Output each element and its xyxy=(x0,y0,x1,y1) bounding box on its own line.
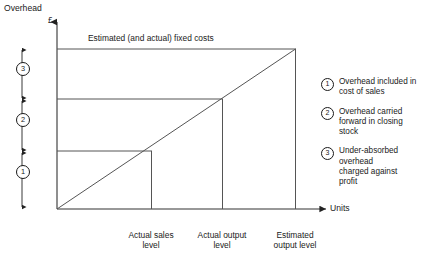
bracket-marker-1: 1 xyxy=(16,165,30,179)
legend-marker-3: 3 xyxy=(321,147,334,160)
legend-marker-2: 2 xyxy=(321,107,334,120)
legend-item: 2 Overhead carried forward in closing st… xyxy=(321,107,429,138)
x-tick-actual-sales-level: Actual sales level xyxy=(112,230,190,251)
fixed-costs-annotation: Estimated (and actual) fixed costs xyxy=(88,33,214,43)
bracket-marker-3: 3 xyxy=(16,62,30,76)
legend-label-3: Under-absorbed overhead charged against … xyxy=(339,146,398,187)
legend-label-2: Overhead carried forward in closing stoc… xyxy=(339,107,403,138)
overhead-absorption-chart: Overhead £ Units Estimated (and actual) … xyxy=(0,0,429,263)
bracket-marker-2: 2 xyxy=(16,113,30,127)
x-axis-title: Units xyxy=(330,203,350,213)
absorbed-overhead-line xyxy=(57,49,296,209)
legend-label-1: Overhead included in cost of sales xyxy=(339,77,416,98)
y-axis-title: Overhead xyxy=(4,3,42,13)
x-tick-actual-output-level: Actual output level xyxy=(183,230,261,251)
y-axis-unit-label: £ xyxy=(48,16,53,26)
x-tick-estimated-output-level: Estimated output level xyxy=(256,230,334,251)
legend-marker-1: 1 xyxy=(321,78,334,91)
legend-item: 3 Under-absorbed overhead charged agains… xyxy=(321,146,429,187)
chart-legend: 1 Overhead included in cost of sales 2 O… xyxy=(321,77,429,197)
legend-item: 1 Overhead included in cost of sales xyxy=(321,77,429,98)
